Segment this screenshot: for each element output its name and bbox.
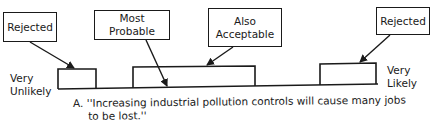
- region-rejected-left: [58, 69, 96, 89]
- scale-left-line2: Unlikely: [10, 85, 51, 98]
- scale-right-line1: Very: [387, 64, 417, 77]
- arrow-rejected-right: [360, 35, 390, 62]
- scale-left-line1: Very: [10, 72, 51, 85]
- caption: A. ''Increasing industrial pollution con…: [73, 94, 406, 123]
- also-acceptable-label-line1: Also: [234, 15, 256, 28]
- scale-right-line2: Likely: [387, 77, 417, 90]
- most-probable-box: Most Probable: [94, 10, 170, 40]
- arrow-also-acceptable: [207, 47, 233, 65]
- rejected-left-box: Rejected: [3, 12, 57, 42]
- rejected-right-box: Rejected: [376, 7, 430, 35]
- also-acceptable-box: Also Acceptable: [208, 8, 282, 47]
- scale-baseline: [58, 84, 378, 89]
- scale-left-label: Very Unlikely: [10, 72, 51, 98]
- region-acceptable: [133, 66, 255, 88]
- most-probable-label: Most Probable: [95, 12, 169, 38]
- rejected-right-label: Rejected: [380, 15, 426, 28]
- also-acceptable-label-line2: Acceptable: [216, 28, 274, 41]
- scale-right-label: Very Likely: [387, 64, 417, 90]
- rejected-left-label: Rejected: [7, 21, 53, 34]
- arrow-most-probable: [146, 40, 167, 86]
- arrow-rejected-left: [30, 42, 74, 68]
- region-rejected-right: [320, 63, 376, 85]
